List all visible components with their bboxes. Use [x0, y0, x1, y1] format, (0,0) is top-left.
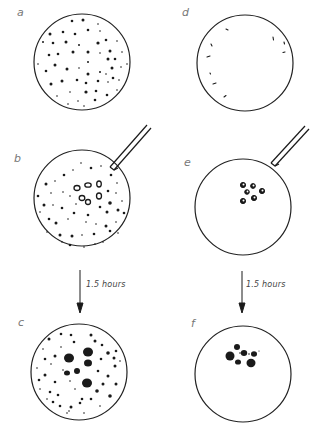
panel-label-e: e [184, 156, 191, 169]
aggregates [64, 348, 93, 388]
arrow-b-to-c [77, 270, 83, 313]
diagram-canvas [0, 0, 315, 432]
panel-f-dish [195, 326, 291, 422]
panel-label-b: b [14, 152, 21, 165]
panel-a-dish [34, 14, 130, 110]
pipette-e [271, 126, 309, 166]
pipette-b [110, 125, 151, 170]
time-label-left: 1.5 hours [86, 280, 126, 289]
aggregates [226, 344, 260, 367]
panel-d-dish [197, 15, 293, 111]
panel-b-dish [34, 125, 151, 248]
time-label-right: 1.5 hours [246, 280, 286, 289]
panel-label-c: c [18, 316, 24, 329]
panel-label-a: a [17, 6, 24, 19]
panel-c-dish [31, 324, 127, 420]
panel-e-dish [195, 126, 309, 255]
panel-label-f: f [191, 317, 195, 330]
marked-cells [74, 181, 102, 205]
panel-label-d: d [182, 6, 189, 19]
arrow-e-to-f [239, 271, 245, 313]
